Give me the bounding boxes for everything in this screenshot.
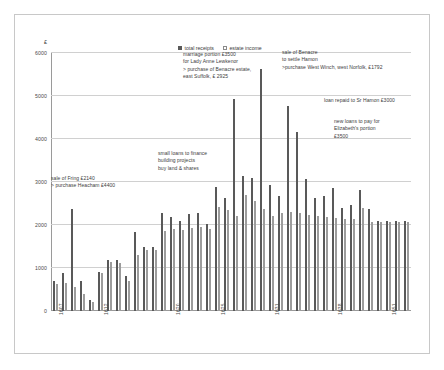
bar-estate-income	[245, 195, 248, 311]
bar-group	[116, 53, 122, 311]
bar-group	[251, 53, 257, 311]
bar-estate-income	[155, 250, 158, 311]
y-axis-title: £	[44, 39, 47, 45]
bar-group	[359, 53, 365, 311]
bar-group	[395, 53, 401, 311]
y-tick-label: 4000	[35, 136, 47, 142]
bar-estate-income	[335, 218, 338, 311]
bar-estate-income	[146, 250, 149, 311]
bar-group	[242, 53, 248, 311]
annotation-loan-repaid: loan repaid to Sr Hamon £3000	[324, 97, 395, 104]
bar-estate-income	[317, 216, 320, 311]
bar-group	[143, 53, 149, 311]
bar-estate-income	[353, 219, 356, 311]
bar-estate-income	[209, 229, 212, 311]
bar-estate-income	[218, 207, 221, 311]
bar-group	[152, 53, 158, 311]
x-tick-label: 1625	[220, 303, 226, 315]
bar-group	[170, 53, 176, 311]
bar-group	[323, 53, 329, 311]
bar-estate-income	[326, 217, 329, 311]
x-axis-labels: 1607161216201625163116381651	[51, 311, 411, 351]
bar-group	[386, 53, 392, 311]
bar-group	[161, 53, 167, 311]
x-tick-label: 1612	[103, 303, 109, 315]
bar-estate-income	[308, 215, 311, 311]
bar-estate-income	[200, 227, 203, 311]
bar-group	[224, 53, 230, 311]
bar-estate-income	[371, 222, 374, 311]
bar-group	[305, 53, 311, 311]
bar-group	[278, 53, 284, 311]
x-tick-label: 1638	[337, 303, 343, 315]
bar-group	[296, 53, 302, 311]
legend-swatch-hollow-icon	[223, 46, 227, 50]
bar-estate-income	[173, 229, 176, 311]
bar-group	[314, 53, 320, 311]
bar-group	[134, 53, 140, 311]
legend-swatch-filled-icon	[178, 46, 182, 50]
bar-estate-income	[83, 294, 86, 311]
bar-estate-income	[65, 283, 68, 311]
bar-group	[341, 53, 347, 311]
x-tick-label: 1607	[58, 303, 64, 315]
annotation-new-loans: new loans to pay for Elizabeth's portion…	[334, 118, 380, 140]
chart-frame: £ total receipts estate income 010002000…	[14, 14, 430, 354]
bar-group	[377, 53, 383, 311]
bar-estate-income	[236, 216, 239, 311]
x-tick-label: 1620	[175, 303, 181, 315]
bar-group	[197, 53, 203, 311]
bar-group	[368, 53, 374, 311]
bar-estate-income	[389, 222, 392, 311]
bar-estate-income	[344, 219, 347, 311]
y-tick-label: 3000	[35, 179, 47, 185]
bar-estate-income	[110, 262, 113, 311]
bar-group	[287, 53, 293, 311]
bar-estate-income	[182, 230, 185, 311]
bar-estate-income	[290, 212, 293, 311]
bar-estate-income	[119, 263, 122, 311]
bar-group	[332, 53, 338, 311]
bar-group	[125, 53, 131, 311]
bar-group	[215, 53, 221, 311]
bar-estate-income	[362, 208, 365, 311]
bar-estate-income	[92, 302, 95, 311]
bar-estate-income	[137, 255, 140, 311]
bar-estate-income	[281, 213, 284, 311]
y-tick-label: 2000	[35, 222, 47, 228]
bar-group	[188, 53, 194, 311]
y-tick-label: 5000	[35, 93, 47, 99]
bar-estate-income	[380, 222, 383, 311]
bar-group	[350, 53, 356, 311]
bar-group	[206, 53, 212, 311]
y-tick-label: 0	[44, 308, 47, 314]
annotation-marriage-portion: marriage portion £3500 for Lady Anne Lew…	[183, 51, 251, 81]
bar-group	[269, 53, 275, 311]
x-tick-label: 1631	[274, 303, 280, 315]
bar-estate-income	[227, 210, 230, 311]
bar-estate-income	[128, 281, 131, 311]
y-tick-label: 1000	[35, 265, 47, 271]
bar-group	[179, 53, 185, 311]
y-tick-label: 6000	[35, 50, 47, 56]
bar-estate-income	[299, 213, 302, 311]
bar-estate-income	[74, 287, 77, 311]
bar-estate-income	[263, 209, 266, 311]
bar-group	[233, 53, 239, 311]
bar-group	[404, 53, 410, 311]
bar-group	[260, 53, 266, 311]
bar-estate-income	[164, 231, 167, 311]
annotation-small-loans: small loans to finance building projects…	[158, 150, 207, 172]
bar-estate-income	[407, 222, 410, 311]
bar-estate-income	[191, 228, 194, 311]
annotation-sale-of-benacre: sale of Benacre to settle Hamon >purchas…	[282, 49, 382, 71]
bar-estate-income	[254, 201, 257, 311]
bar-estate-income	[272, 216, 275, 311]
annotation-sale-of-fring: sale of Fring £2140 > purchase Heacham £…	[51, 175, 115, 190]
x-tick-label: 1651	[391, 303, 397, 315]
bar-estate-income	[398, 222, 401, 311]
